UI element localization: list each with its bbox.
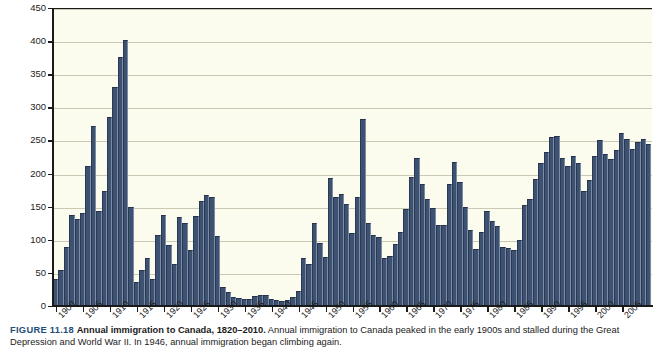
figure-title: Annual immigration to Canada, 1820–2010. xyxy=(77,325,266,335)
y-tick-mark xyxy=(48,107,53,108)
y-tick-mark xyxy=(48,273,53,274)
figure-number: FIGURE 11.18 xyxy=(10,325,74,335)
y-tick-mark xyxy=(48,207,53,208)
bar xyxy=(646,144,651,306)
figure-container: Published by Statistics Canada, 2010. Nu… xyxy=(0,0,657,357)
y-tick-label: 350 xyxy=(30,68,46,79)
y-tick-label: 400 xyxy=(30,35,46,46)
y-tick-mark xyxy=(48,140,53,141)
y-tick-label: 0 xyxy=(41,300,46,311)
y-tick-label: 100 xyxy=(30,234,46,245)
y-tick-mark xyxy=(48,74,53,75)
y-tick-mark xyxy=(48,8,53,9)
y-tick-label: 250 xyxy=(30,134,46,145)
y-tick-label: 50 xyxy=(35,267,46,278)
plot-area xyxy=(53,8,652,306)
y-tick-label: 200 xyxy=(30,168,46,179)
y-axis-ticks: 050100150200250300350400450 xyxy=(0,0,53,314)
y-tick-label: 150 xyxy=(30,201,46,212)
y-tick-mark xyxy=(48,174,53,175)
figure-caption: FIGURE 11.18 Annual immigration to Canad… xyxy=(10,325,655,348)
bar-series xyxy=(53,9,652,306)
y-tick-label: 300 xyxy=(30,101,46,112)
y-tick-label: 450 xyxy=(30,2,46,13)
y-tick-mark xyxy=(48,41,53,42)
y-tick-mark xyxy=(48,240,53,241)
